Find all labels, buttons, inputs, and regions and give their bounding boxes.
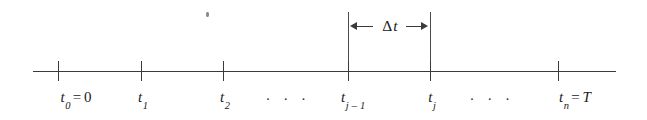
delta-t-arrowhead-left-icon <box>350 22 357 30</box>
ellipsis-left: · · · <box>266 92 311 107</box>
time-axis-line <box>33 71 616 72</box>
delta-glyph: Δ <box>382 17 392 34</box>
axis-label-tn: tn=T <box>559 90 591 109</box>
axis-label-t2: t2 <box>220 90 230 109</box>
scan-speck-artifact <box>206 12 209 17</box>
axis-label-t0: t0=0 <box>60 90 91 109</box>
axis-label-t2-subscript: 2 <box>225 100 230 111</box>
axis-label-tj-minus-1-subscript: j – 1 <box>346 100 366 111</box>
ellipsis-right: · · · <box>470 92 515 107</box>
axis-tick-tn <box>558 61 559 81</box>
delta-t-arrow-line-right <box>406 26 422 27</box>
axis-label-tn-subscript: n <box>564 100 569 111</box>
axis-label-t1-subscript: 1 <box>143 100 148 111</box>
axis-label-tn-equals: = <box>569 89 583 105</box>
axis-label-tj: tj <box>428 90 436 109</box>
axis-tick-tj-1 <box>348 61 349 81</box>
axis-label-tn-value: T <box>582 89 591 105</box>
axis-label-t0-equals: = <box>70 89 84 105</box>
axis-tick-t1 <box>141 61 142 81</box>
time-partition-figure: Δt t0=0 t1 t2 tj – 1 tj tn=T · · · · · · <box>0 0 647 120</box>
delta-t-arrowhead-right-icon <box>421 22 428 30</box>
axis-label-tj-subscript: j <box>433 100 436 111</box>
axis-label-tj-minus-1: tj – 1 <box>341 90 365 109</box>
axis-label-t0-subscript: 0 <box>65 100 70 111</box>
delta-t-variable: t <box>392 17 397 34</box>
axis-tick-tj <box>430 61 431 81</box>
axis-label-t1: t1 <box>138 90 148 109</box>
axis-label-t0-value: 0 <box>84 89 92 105</box>
axis-tick-t2 <box>223 61 224 81</box>
delta-t-label: Δt <box>382 18 397 34</box>
axis-tick-t0 <box>58 61 59 81</box>
delta-t-arrow-line-left <box>357 26 373 27</box>
